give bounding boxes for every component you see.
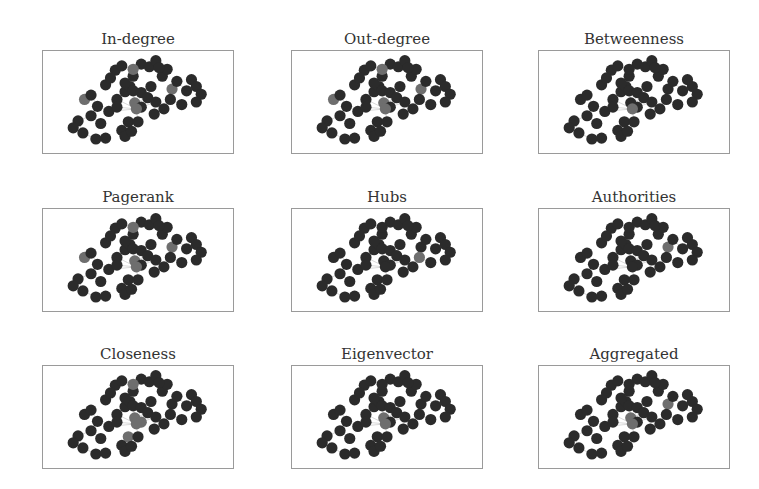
highlighted-node [131,261,142,272]
panel-betweenness: Betweenness [538,28,730,154]
graph-node [420,76,431,87]
graph-node [105,387,116,398]
graph-node [354,387,365,398]
graph-node [334,405,345,416]
plot-frame [291,208,483,312]
graph-node [667,391,678,402]
graph-node [334,425,345,436]
graph-node [615,392,626,403]
graph-node [375,126,386,137]
network-plot [43,209,233,311]
plot-frame [538,50,730,154]
graph-node [349,448,360,459]
graph-node [564,122,575,133]
graph-node [394,396,405,407]
graph-node [677,400,688,411]
graph-node [601,72,612,83]
graph-node [654,103,665,114]
graph-node [624,64,635,75]
graph-node [440,254,451,265]
graph-node [622,441,633,452]
graph-node [622,126,633,137]
graph-node [116,60,127,71]
graph-node [654,261,665,272]
graph-node [586,448,597,459]
network-plot [539,366,729,468]
graph-node [77,127,88,138]
graph-node [95,276,106,287]
highlighted-node [414,252,425,263]
graph-node [145,81,156,92]
plot-frame [42,365,234,469]
panel-title: Eigenvector [291,343,483,365]
graph-node [394,81,405,92]
graph-node [100,448,111,459]
highlighted-node [627,103,638,114]
highlighted-node [380,418,391,429]
panel-out-degree: Out-degree [291,28,483,154]
graph-node [68,280,79,291]
graph-node [349,291,360,302]
graph-node [334,110,345,121]
highlighted-node [380,103,391,114]
panel-authorities: Authorities [538,186,730,312]
graph-node [573,285,584,296]
graph-node [176,414,187,425]
graph-node [92,259,103,270]
graph-node [661,252,672,263]
graph-node [607,417,618,428]
graph-node [591,276,602,287]
graph-node [165,409,176,420]
graph-node [672,99,683,110]
graph-node [334,268,345,279]
graph-node [687,96,698,107]
graph-node [68,122,79,133]
highlighted-node [128,64,139,75]
graph-node [607,260,618,271]
graph-node [645,423,656,434]
graph-node [339,448,350,459]
graph-node [126,126,137,137]
graph-node [354,72,365,83]
graph-node [339,133,350,144]
graph-node [420,234,431,245]
network-plot [539,51,729,153]
graph-node [641,396,652,407]
graph-node [581,248,592,259]
graph-node [95,118,106,129]
graph-node [126,284,137,295]
graph-node [601,230,612,241]
graph-node [381,116,392,127]
graph-node [649,62,660,73]
graph-node [132,116,143,127]
graph-node [654,418,665,429]
graph-node [165,94,176,105]
graph-node [191,411,202,422]
graph-node [649,220,660,231]
graph-node [628,116,639,127]
panel-title: Out-degree [291,28,483,50]
highlighted-node [627,418,638,429]
graph-node [394,239,405,250]
graph-node [132,274,143,285]
graph-node [564,280,575,291]
graph-node [641,239,652,250]
graph-node [581,110,592,121]
graph-node [100,291,111,302]
graph-node [440,96,451,107]
graph-node [339,291,350,302]
graph-node [68,437,79,448]
graph-node [667,234,678,245]
graph-node [360,260,371,271]
graph-node [661,94,672,105]
plot-frame [42,208,234,312]
graph-node [368,235,379,246]
graph-node [381,274,392,285]
graph-node [407,261,418,272]
graph-node [368,392,379,403]
graph-node [181,85,192,96]
graph-node [601,387,612,398]
panel-title: Betweenness [538,28,730,50]
graph-node [564,437,575,448]
graph-node [344,118,355,129]
